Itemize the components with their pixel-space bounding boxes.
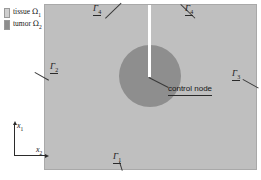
legend-name-tumor: tumor [13, 19, 31, 28]
boundary-label-gamma-4-right: Γ4 [185, 4, 193, 16]
gamma-underline [185, 15, 193, 16]
boundary-label-gamma-2: Γ2 [50, 62, 58, 74]
axis-vertical-line [14, 124, 15, 156]
axis-arrow-up-icon [13, 121, 17, 125]
gamma-subscript: 4 [190, 9, 193, 15]
legend-swatch-tumor [4, 20, 10, 30]
figure-canvas: Γ4 Γ4 Γ2 Γ3 Γ1 control node tissue Ω1 [0, 0, 261, 180]
axis-arrow-right-icon [45, 154, 49, 158]
gamma-underline [113, 163, 121, 164]
applicator-probe-line [148, 5, 151, 77]
boundary-label-gamma-3: Γ3 [232, 69, 240, 81]
boundary-label-gamma-1: Γ1 [113, 152, 121, 164]
boundary-label-gamma-4-left: Γ4 [93, 4, 101, 16]
legend-item-tumor: tumor Ω2 [4, 19, 42, 30]
axis-subscript-x1: 1 [21, 126, 24, 132]
legend-label-tissue: tissue Ω1 [13, 8, 41, 18]
omega-subscript-tumor: 2 [39, 23, 42, 29]
legend: tissue Ω1 tumor Ω2 [4, 7, 42, 31]
control-node-underline [168, 95, 212, 96]
coordinate-axes: x1 x2 [14, 122, 48, 160]
gamma-underline [93, 15, 101, 16]
control-node-text: control node [168, 84, 212, 93]
gamma-underline [50, 73, 58, 74]
gamma-subscript: 4 [98, 9, 101, 15]
legend-swatch-tissue [4, 8, 10, 18]
legend-item-tissue: tissue Ω1 [4, 7, 42, 18]
axis-label-x1: x1 [17, 122, 23, 132]
gamma-subscript: 1 [118, 157, 121, 163]
gamma-underline [232, 80, 240, 81]
gamma-subscript: 2 [55, 67, 58, 73]
gamma-subscript: 3 [237, 74, 240, 80]
omega-subscript-tissue: 1 [38, 11, 41, 17]
axis-label-x2: x2 [36, 146, 42, 156]
legend-name-tissue: tissue [13, 7, 30, 16]
control-node-annotation: control node [168, 85, 212, 96]
legend-label-tumor: tumor Ω2 [13, 20, 42, 30]
axis-subscript-x2: 2 [40, 150, 43, 156]
